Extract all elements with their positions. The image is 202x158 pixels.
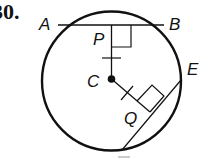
label-p: P (93, 31, 104, 48)
label-a: A (39, 16, 50, 33)
segment-cq (112, 79, 151, 112)
label-b: B (169, 16, 180, 33)
label-q: Q (124, 110, 137, 127)
geometry-figure: 30. A B P C E Q (0, 0, 202, 158)
right-angle-mark-q (137, 85, 164, 112)
label-e: E (187, 61, 198, 78)
center-point-c (108, 75, 116, 83)
label-c: C (87, 73, 99, 90)
right-angle-mark-p (112, 25, 132, 47)
